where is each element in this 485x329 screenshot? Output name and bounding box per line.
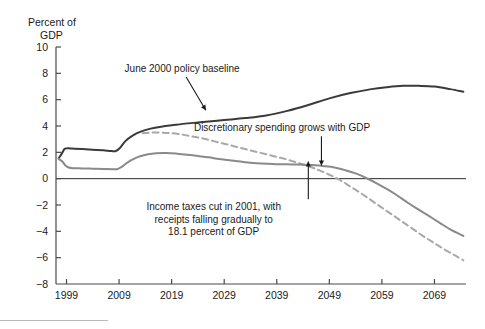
x-tick-label-2039: 2039: [265, 289, 289, 301]
footer-rule: [0, 320, 108, 321]
y-tick-label-2: 2: [42, 146, 48, 158]
y-tick-label--2: −2: [36, 199, 48, 211]
x-tick-label-2009: 2009: [107, 289, 131, 301]
plot-area: 1086420−2−4−6−81999200920192029203920492…: [0, 0, 485, 329]
y-tick-label--8: −8: [36, 278, 48, 290]
y-tick-label--6: −6: [36, 251, 48, 263]
y-tick-label-6: 6: [42, 93, 48, 105]
series-line-1: [143, 132, 464, 260]
x-tick-label-1999: 1999: [55, 289, 79, 301]
taxcut-annotation-line2: 18.1 percent of GDP: [168, 226, 259, 237]
y-tick-label-10: 10: [36, 41, 48, 53]
x-tick-label-2069: 2069: [423, 289, 447, 301]
x-tick-label-2049: 2049: [318, 289, 342, 301]
chart-figure: Percent of GDP 1086420−2−4−6−81999200920…: [0, 0, 485, 329]
x-tick-label-2059: 2059: [370, 289, 394, 301]
y-tick-label--4: −4: [36, 225, 48, 237]
x-tick-label-2029: 2029: [213, 289, 237, 301]
discretionary-annotation-line0: Discretionary spending grows with GDP: [194, 122, 371, 133]
y-tick-label-0: 0: [42, 172, 48, 184]
taxcut-annotation-line1: receipts falling gradually to: [154, 214, 273, 225]
x-tick-label-2019: 2019: [160, 289, 184, 301]
y-tick-label-8: 8: [42, 67, 48, 79]
baseline-annotation-arrow-shaft: [186, 77, 206, 110]
baseline-annotation-line0: June 2000 policy baseline: [125, 63, 241, 74]
y-tick-label-4: 4: [42, 120, 48, 132]
taxcut-annotation-line0: Income taxes cut in 2001, with: [146, 201, 281, 212]
